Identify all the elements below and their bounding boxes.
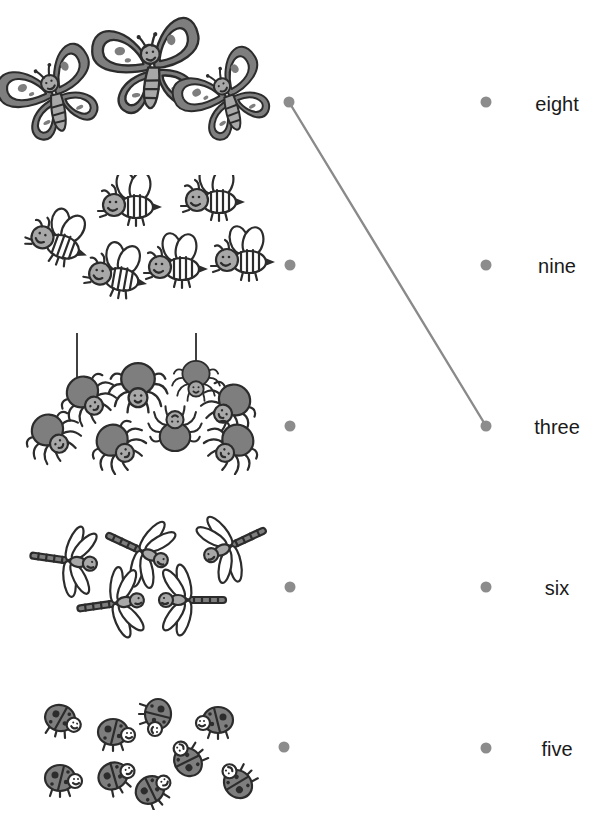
dragonfly-icon [25, 519, 102, 601]
number-word-nine: nine [538, 255, 576, 278]
dragonflies-group [0, 500, 280, 640]
bee-icon [144, 231, 208, 288]
bees-group [0, 175, 280, 315]
ladybug-icon [213, 755, 262, 804]
butterflies-group [0, 15, 280, 145]
dragonfly-icon [189, 500, 280, 592]
ladybug-icon [139, 699, 171, 736]
spider-icon [148, 406, 201, 451]
number-word-eight: eight [535, 93, 578, 116]
ladybug-icon [45, 765, 82, 797]
right-dot-nine[interactable] [481, 260, 492, 271]
left-dot-dragonflies[interactable] [285, 582, 296, 593]
number-word-six: six [545, 577, 569, 600]
ladybug-icon [94, 754, 142, 800]
spider-icon [109, 363, 168, 412]
left-dot-ladybugs[interactable] [279, 742, 290, 753]
bee-icon [98, 175, 162, 226]
bee-icon [20, 198, 100, 273]
ladybug-icon [196, 707, 233, 739]
ladybug-icon [98, 719, 135, 751]
ladybugs-group [0, 680, 280, 810]
number-word-five: five [541, 738, 572, 761]
right-dot-eight[interactable] [481, 97, 492, 108]
connection-line-butterflies-three [289, 102, 486, 426]
bee-icon [81, 236, 154, 303]
spiders-group [0, 325, 280, 475]
right-dot-three[interactable] [481, 421, 492, 432]
ladybug-icon [130, 766, 179, 810]
ladybug-icon [164, 733, 212, 782]
ladybug-icon [41, 702, 85, 742]
right-dot-five[interactable] [481, 743, 492, 754]
number-word-three: three [534, 416, 580, 439]
spider-icon [172, 361, 220, 401]
right-dot-six[interactable] [481, 582, 492, 593]
spider-icon [195, 410, 268, 475]
spider-icon [16, 400, 89, 472]
dragonfly-icon [159, 563, 226, 637]
left-dot-spiders[interactable] [285, 421, 296, 432]
bee-icon [211, 224, 275, 281]
bee-icon [181, 175, 245, 221]
left-dot-butterflies[interactable] [284, 97, 295, 108]
left-dot-bees[interactable] [285, 260, 296, 271]
